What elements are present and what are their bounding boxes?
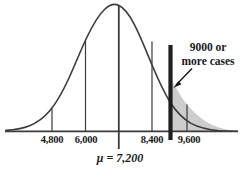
tick-label-6000: 6,000 (75, 134, 98, 145)
tick-label-8400: 8,400 (141, 134, 164, 145)
callout-line-1: 9000 or (190, 41, 227, 53)
callout-arrow-head (173, 81, 181, 88)
tick-label-9600: 9,600 (178, 134, 201, 145)
mean-label: μ = 7,200 (96, 151, 144, 165)
bell-curve (6, 4, 237, 131)
callout-line-2: more cases (181, 55, 235, 67)
tick-label-4800: 4,800 (41, 134, 64, 145)
shaded-tail-region (171, 78, 232, 132)
normal-distribution-figure: 4,800 6,000 8,400 9,600 μ = 7,200 9000 o… (0, 0, 243, 170)
